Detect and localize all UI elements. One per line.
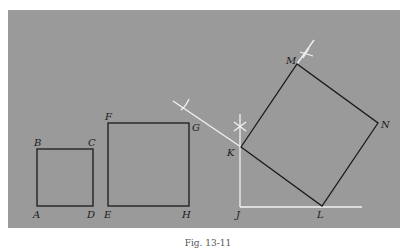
construction-lines	[173, 40, 362, 207]
label-b: B	[33, 137, 41, 148]
label-a: A	[32, 209, 40, 220]
label-l: L	[316, 209, 324, 220]
square-abcd	[37, 149, 93, 206]
label-j: J	[234, 209, 241, 220]
label-d: D	[86, 209, 95, 220]
label-m: M	[285, 55, 297, 66]
figure-caption: Fig. 13-11	[0, 238, 416, 248]
label-f: F	[104, 111, 113, 122]
label-k: K	[226, 147, 235, 158]
label-g: G	[192, 122, 200, 133]
square-efgh	[108, 123, 189, 206]
label-h: H	[181, 209, 191, 220]
label-e: E	[103, 209, 112, 220]
extension-line-m	[297, 40, 314, 64]
square-klnm	[241, 64, 378, 206]
label-n: N	[380, 119, 391, 130]
label-c: C	[88, 137, 96, 148]
